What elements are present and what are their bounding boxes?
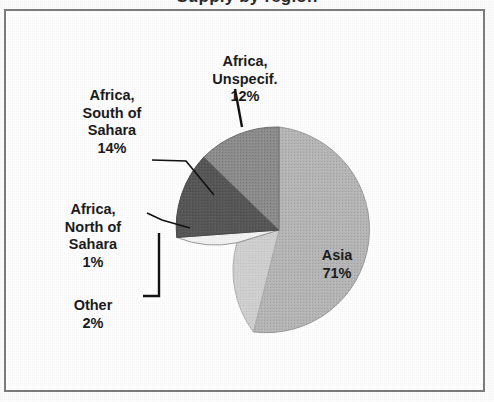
- chart-title-clipped: Supply by region: [0, 0, 494, 9]
- scanned-page: Supply by region: [0, 0, 494, 402]
- pie-label-africa-south-of-sahara: Africa, South of Sahara 14%: [44, 87, 180, 157]
- pie-label-africa-north-of-sahara: Africa, North of Sahara 1%: [28, 201, 158, 271]
- chart-title-text: Supply by region: [0, 0, 494, 7]
- pie-label-africa-unspecif: Africa, Unspecif. 12%: [184, 53, 306, 106]
- chart-frame: Africa, Unspecif. 12% Africa, South of S…: [4, 9, 485, 392]
- pie-label-asia: Asia 71%: [294, 247, 380, 282]
- pie-label-other: Other 2%: [28, 297, 158, 332]
